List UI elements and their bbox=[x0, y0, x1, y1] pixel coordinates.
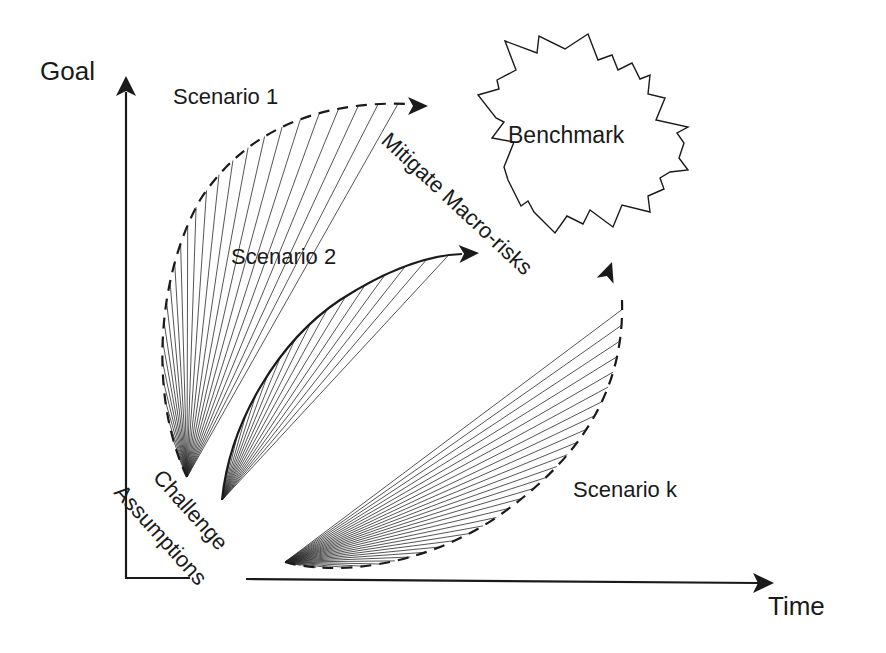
scenario-2-fan-line bbox=[222, 340, 295, 500]
scenario-1-arrow-icon bbox=[408, 97, 428, 115]
scenario-2-fan-line bbox=[222, 266, 405, 500]
scenario-1-fan-line bbox=[187, 161, 233, 478]
scenario-k-arrow-icon bbox=[597, 259, 621, 284]
scenario-2-label: Scenario 2 bbox=[231, 244, 336, 269]
scenario-k-fan-line bbox=[285, 442, 577, 562]
scenario-k-label: Scenario k bbox=[573, 477, 678, 502]
x-axis-label: Time bbox=[768, 591, 825, 621]
scenario-planning-diagram: Goal Time Scenario 1 Scenario 2 Scenario… bbox=[0, 0, 886, 653]
scenario-k-fan-line bbox=[285, 387, 608, 562]
scenario-k-path bbox=[285, 300, 622, 568]
scenario-2-fan-line bbox=[222, 357, 281, 500]
scenario-1-fan-line bbox=[187, 109, 339, 477]
scenario-k-fan-line bbox=[285, 357, 617, 562]
scenario-1-label: Scenario 1 bbox=[173, 84, 278, 109]
benchmark-label: Benchmark bbox=[508, 122, 625, 148]
scenario-2-fan-line bbox=[222, 296, 346, 500]
scenario-2-fan-line bbox=[222, 375, 268, 500]
scenario-2-fan-line bbox=[222, 255, 449, 500]
scenario-1-fan-line bbox=[187, 104, 398, 477]
scenario-k-fan-line bbox=[285, 416, 595, 562]
scenario-2-fan-line bbox=[222, 285, 365, 500]
scenario-k-fan-line bbox=[285, 455, 567, 562]
scenario-k-fan-line bbox=[285, 467, 557, 563]
scenario-k-fan-line bbox=[285, 499, 522, 563]
scenario-k-fan-line bbox=[285, 341, 620, 562]
x-axis-right-segment bbox=[246, 579, 758, 583]
scenario-1-fan-line bbox=[187, 225, 188, 477]
scenario-k-fan-line bbox=[285, 372, 613, 562]
y-axis-label: Goal bbox=[40, 56, 95, 86]
scenario-1-fan-line bbox=[187, 113, 319, 477]
scenario-1-fan-line bbox=[187, 104, 378, 477]
scenario-2-fan-line bbox=[222, 275, 385, 500]
